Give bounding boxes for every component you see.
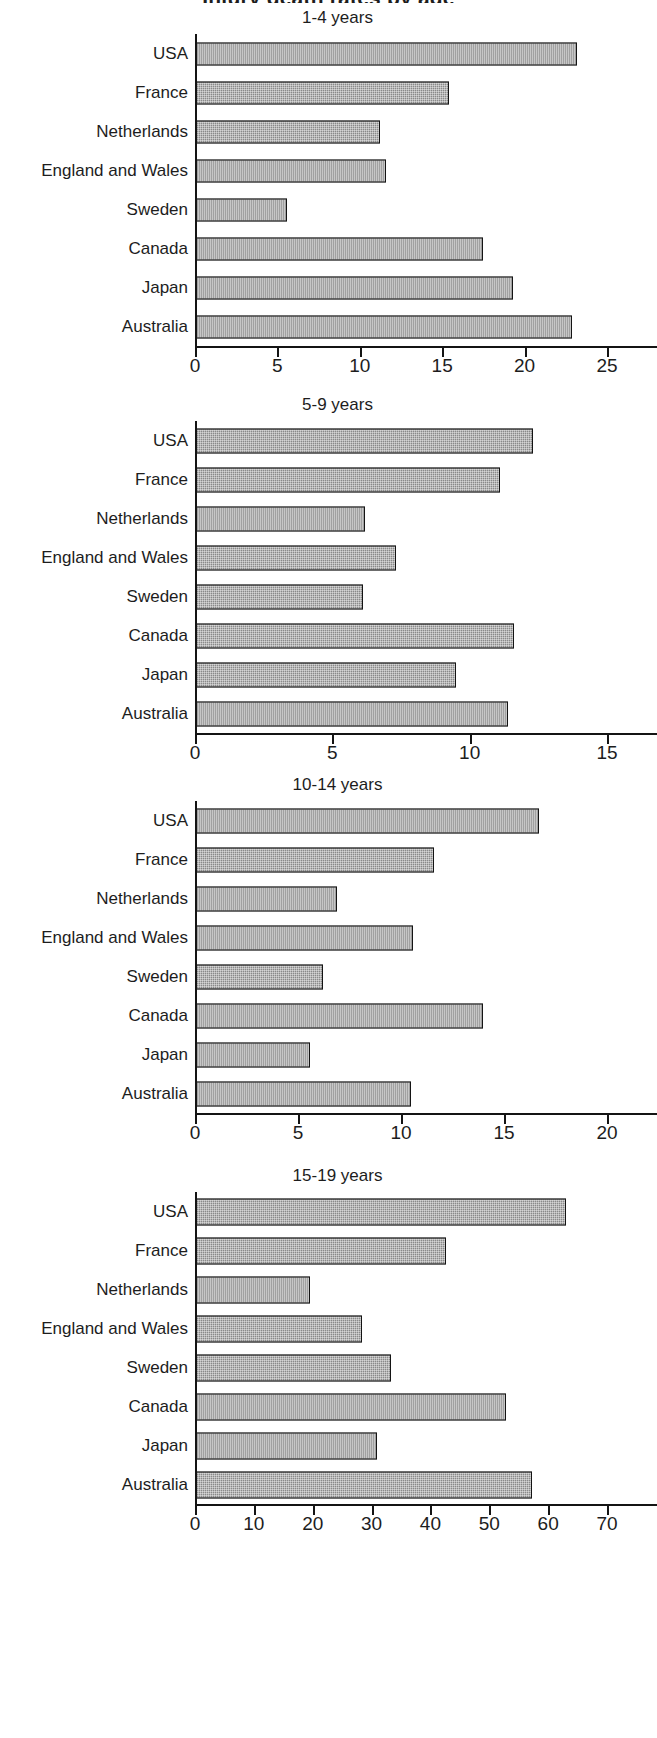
category-label: Australia (0, 1476, 195, 1494)
bar-track (195, 694, 657, 733)
category-label: Japan (0, 1046, 195, 1064)
x-axis-tick-labels: 051015 (195, 742, 657, 766)
bar-track (195, 918, 657, 957)
bar-track (195, 801, 657, 840)
bar-row: Netherlands (0, 112, 657, 151)
bar-row: Sweden (0, 577, 657, 616)
bar-row: Canada (0, 996, 657, 1035)
bar-row: Canada (0, 1387, 657, 1426)
category-label: Japan (0, 279, 195, 297)
x-axis-tick-label: 50 (479, 1513, 500, 1535)
bar-row: Japan (0, 1426, 657, 1465)
bar (195, 276, 513, 299)
chart-panel-2: 5-9 yearsUSAFranceNetherlandsEngland and… (0, 395, 657, 766)
y-axis-line (195, 34, 197, 346)
bar (195, 428, 533, 453)
plot-area: USAFranceNetherlandsEngland and WalesSwe… (0, 1192, 657, 1504)
bar-track (195, 268, 657, 307)
x-axis-tick-label: 60 (538, 1513, 559, 1535)
bar (195, 1432, 377, 1459)
y-axis-line (195, 421, 197, 733)
bar-row: Netherlands (0, 499, 657, 538)
bar (195, 1315, 362, 1342)
x-axis-tick-label: 10 (243, 1513, 264, 1535)
bar (195, 1354, 391, 1381)
bar-track (195, 307, 657, 346)
bar-row: Netherlands (0, 1270, 657, 1309)
bar-track (195, 34, 657, 73)
bar-row: USA (0, 421, 657, 460)
bar-row: England and Wales (0, 538, 657, 577)
x-axis-tick-label: 0 (190, 355, 201, 377)
bar (195, 1042, 310, 1067)
bar (195, 467, 500, 492)
bar (195, 42, 577, 65)
x-axis-tick-label: 15 (493, 1122, 514, 1144)
bar-row: Canada (0, 616, 657, 655)
bar-row: England and Wales (0, 151, 657, 190)
bar-track (195, 73, 657, 112)
bar-track (195, 1348, 657, 1387)
category-label: Canada (0, 1007, 195, 1025)
bar (195, 120, 380, 143)
bar-row: France (0, 73, 657, 112)
x-axis-tick-label: 0 (190, 1122, 201, 1144)
bar (195, 1237, 446, 1264)
bar (195, 506, 365, 531)
bar-track (195, 1309, 657, 1348)
bar (195, 81, 449, 104)
category-label: Australia (0, 318, 195, 336)
injury-death-rate-figure: Injury death rates by age 1-4 yearsUSAFr… (0, 0, 657, 1738)
category-label: USA (0, 812, 195, 830)
chart-title: 15-19 years (0, 1166, 657, 1186)
bar-track (195, 840, 657, 879)
bar-row: Japan (0, 655, 657, 694)
bar (195, 662, 456, 687)
bar-track (195, 996, 657, 1035)
category-label: France (0, 851, 195, 869)
x-axis-tick-label: 0 (190, 1513, 201, 1535)
bar (195, 964, 323, 989)
category-label: Sweden (0, 1359, 195, 1377)
category-label: France (0, 471, 195, 489)
x-axis-tick-label: 20 (514, 355, 535, 377)
bar-track (195, 577, 657, 616)
bar-row: Japan (0, 268, 657, 307)
bar-track (195, 1192, 657, 1231)
bar (195, 623, 514, 648)
bar-row: Canada (0, 229, 657, 268)
bar-track (195, 112, 657, 151)
bar-row: France (0, 1231, 657, 1270)
category-label: Australia (0, 705, 195, 723)
x-axis-tick-label: 0 (190, 742, 201, 764)
bar (195, 925, 413, 950)
bar-row: USA (0, 1192, 657, 1231)
bar (195, 198, 287, 221)
chart-title: 5-9 years (0, 395, 657, 415)
category-label: USA (0, 45, 195, 63)
category-label: Canada (0, 1398, 195, 1416)
x-axis-tick-labels: 05101520 (195, 1122, 657, 1146)
category-label: England and Wales (0, 929, 195, 947)
chart-title: 10-14 years (0, 775, 657, 795)
bar-row: Australia (0, 1074, 657, 1113)
bar-row: USA (0, 801, 657, 840)
x-axis-tick-label: 15 (596, 742, 617, 764)
x-axis-tick-label: 15 (432, 355, 453, 377)
category-label: Japan (0, 666, 195, 684)
x-axis-tick-label: 40 (420, 1513, 441, 1535)
plot-area: USAFranceNetherlandsEngland and WalesSwe… (0, 34, 657, 346)
bar-track (195, 229, 657, 268)
bar-row: England and Wales (0, 918, 657, 957)
y-axis-line (195, 801, 197, 1113)
x-axis-tick-labels: 0510152025 (195, 355, 657, 379)
y-axis-line (195, 1192, 197, 1504)
x-axis-tick-label: 5 (272, 355, 283, 377)
bar (195, 1393, 506, 1420)
bar (195, 1471, 532, 1498)
chart-panel-4: 15-19 yearsUSAFranceNetherlandsEngland a… (0, 1166, 657, 1537)
x-axis-line (195, 1504, 657, 1513)
category-label: Netherlands (0, 510, 195, 528)
bar-row: Netherlands (0, 879, 657, 918)
bar (195, 584, 363, 609)
